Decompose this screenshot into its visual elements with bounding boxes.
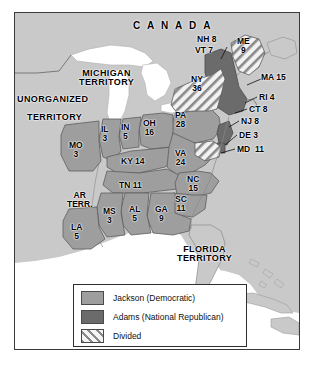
legend-swatch-jackson xyxy=(81,291,104,305)
legend-item-adams: Adams (National Republican) xyxy=(81,307,246,326)
state-in xyxy=(119,117,141,149)
legend-label-adams: Adams (National Republican) xyxy=(113,312,224,322)
legend-item-divided: Divided xyxy=(81,326,246,345)
state-tn xyxy=(103,169,179,193)
legend-label-divided: Divided xyxy=(113,331,141,341)
legend-swatch-adams xyxy=(81,310,104,324)
state-al xyxy=(121,193,151,235)
legend-item-jackson: Jackson (Democratic) xyxy=(81,288,246,307)
election-map-figure: C A N A D A MICHIGAN TERRITORY UNORGANIZ… xyxy=(14,12,300,350)
state-mo xyxy=(61,121,101,171)
legend-label-jackson: Jackson (Democratic) xyxy=(113,293,195,303)
legend-swatch-divided xyxy=(81,329,104,343)
map-legend: Jackson (Democratic) Adams (National Rep… xyxy=(73,284,247,347)
state-oh xyxy=(139,113,173,149)
